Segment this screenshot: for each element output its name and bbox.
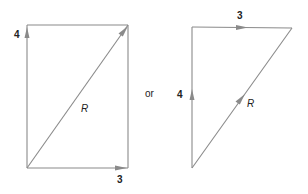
right-resultant-label: R (247, 98, 254, 109)
left-horizontal-label: 3 (117, 174, 123, 185)
left-resultant-vector (27, 25, 128, 168)
left-vertical-label: 4 (14, 29, 20, 40)
right-figure: 3 4 R (177, 10, 292, 168)
right-horizontal-label: 3 (237, 10, 243, 21)
vector-diagram: 4 3 R or 3 4 R (0, 0, 308, 194)
left-figure: 4 3 R (14, 25, 128, 185)
right-vertical-label: 4 (177, 89, 183, 100)
arrowhead-right-icon (236, 25, 248, 30)
arrowhead-diagonal-icon (236, 94, 246, 105)
left-resultant-label: R (81, 103, 88, 114)
or-connector-label: or (145, 88, 155, 99)
arrowhead-up-icon (190, 89, 195, 100)
arrowhead-up-icon (25, 27, 30, 38)
arrowhead-diagonal-icon (119, 26, 129, 37)
arrowhead-right-icon (115, 166, 127, 171)
